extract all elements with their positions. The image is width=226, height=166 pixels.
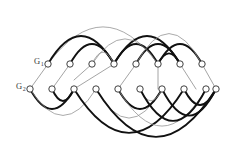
figure-container: G1G2 [0, 0, 226, 166]
node-top-4[interactable] [111, 61, 117, 67]
arcs-above-group [48, 27, 202, 64]
label-g1-subscript: 1 [41, 61, 44, 67]
node-top-3[interactable] [89, 61, 95, 67]
node-bottom-9[interactable] [203, 86, 209, 92]
node-top-8[interactable] [199, 61, 205, 67]
edge-cross-7 [202, 64, 216, 89]
node-bottom-1[interactable] [27, 86, 33, 92]
label-g1: G1 [34, 56, 44, 67]
node-top-2[interactable] [67, 61, 73, 67]
node-top-5[interactable] [133, 61, 139, 67]
nodes-group [27, 61, 219, 92]
arc-bot-2 [52, 89, 74, 101]
node-top-1[interactable] [45, 61, 51, 67]
node-top-6[interactable] [155, 61, 161, 67]
edge-cross-4 [118, 64, 136, 89]
label-g2: G2 [16, 81, 26, 92]
node-bottom-10[interactable] [213, 86, 219, 92]
arcs-below-group [30, 89, 216, 137]
node-bottom-7[interactable] [159, 86, 165, 92]
node-bottom-5[interactable] [115, 86, 121, 92]
edge-cross-1 [30, 64, 48, 89]
node-top-7[interactable] [177, 61, 183, 67]
label-g2-subscript: 2 [23, 86, 26, 92]
arc-top-11 [92, 39, 158, 64]
node-bottom-6[interactable] [137, 86, 143, 92]
graph-diagram: G1G2 [0, 0, 226, 166]
edge-cross-2 [52, 64, 70, 89]
edge-cross-6 [180, 64, 196, 89]
arc-bot-12 [184, 89, 216, 105]
arc-bot-8 [118, 89, 206, 126]
arc-top-10 [158, 53, 180, 64]
node-bottom-4[interactable] [93, 86, 99, 92]
cross-edges-group [30, 64, 216, 89]
node-bottom-3[interactable] [71, 86, 77, 92]
edge-cross-3 [74, 64, 114, 89]
node-bottom-2[interactable] [49, 86, 55, 92]
arc-top-4 [92, 52, 114, 64]
node-bottom-8[interactable] [181, 86, 187, 92]
arc-bot-3 [30, 89, 96, 116]
